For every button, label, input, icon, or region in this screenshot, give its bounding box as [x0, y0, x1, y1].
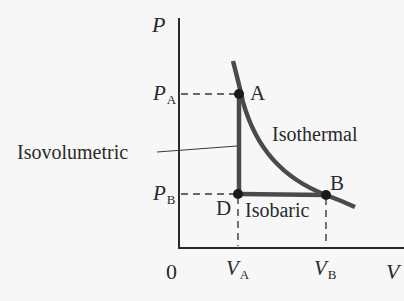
vb-main: V	[314, 256, 327, 280]
point-d-label: D	[216, 198, 231, 219]
pa-main: P	[153, 81, 166, 105]
pb-sub: B	[167, 192, 176, 207]
va-main: V	[226, 256, 239, 280]
point-b-label: B	[330, 173, 344, 194]
pa-sub: A	[167, 92, 176, 107]
x-axis-label: V	[386, 261, 399, 283]
pb-main: P	[153, 181, 166, 205]
point-a-label: A	[250, 83, 265, 104]
vb-tick-label: VB	[314, 258, 337, 279]
pv-diagram: P V 0 PA PB VA VB A B D Isothermal Isovo…	[0, 0, 404, 301]
y-axis-label: P	[152, 14, 165, 36]
pa-tick-label: PA	[153, 83, 176, 104]
point-d-dot	[233, 189, 243, 199]
va-sub: A	[240, 267, 249, 282]
pb-tick-label: PB	[153, 183, 176, 204]
isobaric-line	[238, 194, 326, 195]
isovolumetric-label: Isovolumetric	[17, 142, 128, 162]
isobaric-label: Isobaric	[245, 200, 309, 220]
isothermal-label: Isothermal	[272, 124, 358, 144]
va-tick-label: VA	[226, 258, 249, 279]
origin-label: 0	[166, 261, 177, 283]
point-a-dot	[234, 89, 244, 99]
vb-sub: B	[328, 267, 337, 282]
isovolumetric-leader	[157, 146, 237, 152]
